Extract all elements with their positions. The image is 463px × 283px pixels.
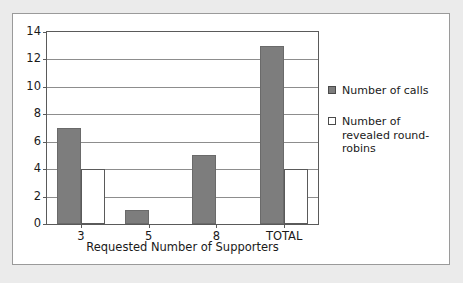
bar-calls-5 bbox=[125, 210, 149, 224]
bar-round-robins-TOTAL bbox=[284, 169, 308, 224]
y-axis-tick-mark bbox=[43, 224, 47, 225]
x-axis-tick-mark bbox=[284, 224, 285, 228]
legend-swatch-empty-white-square-icon bbox=[328, 117, 336, 125]
y-axis-tick-label: 8 bbox=[34, 109, 41, 121]
bar-round-robins-3 bbox=[81, 169, 105, 224]
x-axis-title: Requested Number of Supporters bbox=[46, 242, 319, 254]
legend-item-calls: Number of calls bbox=[328, 84, 446, 98]
legend-swatch-filled-gray-square-icon bbox=[328, 86, 336, 94]
y-axis-tick-label: 2 bbox=[34, 191, 41, 203]
x-axis-tick-mark bbox=[81, 224, 82, 228]
y-axis-tick-mark bbox=[43, 197, 47, 198]
y-axis-tick-label: 4 bbox=[34, 163, 41, 175]
y-axis-tick-mark bbox=[43, 32, 47, 33]
y-axis-tick-mark bbox=[43, 87, 47, 88]
chart-legend: Number of calls Number of revealed round… bbox=[328, 84, 446, 173]
x-axis-tick-label: 3 bbox=[77, 231, 84, 243]
y-axis-tick-label: 6 bbox=[34, 136, 41, 148]
x-axis-tick-mark bbox=[216, 224, 217, 228]
legend-label-round-robins: Number of revealed round-robins bbox=[342, 115, 446, 156]
y-axis-tick-mark bbox=[43, 169, 47, 170]
bar-calls-8 bbox=[192, 155, 216, 224]
x-axis-tick-mark bbox=[149, 224, 150, 228]
legend-item-round-robins: Number of revealed round-robins bbox=[328, 115, 446, 156]
y-axis-tick-label: 12 bbox=[26, 54, 41, 66]
y-axis-tick-mark bbox=[43, 59, 47, 60]
bar-calls-TOTAL bbox=[260, 46, 284, 224]
legend-label-calls: Number of calls bbox=[342, 84, 428, 98]
y-axis-tick-label: 0 bbox=[34, 218, 41, 230]
bar-calls-3 bbox=[57, 128, 81, 224]
y-axis-tick-label: 10 bbox=[26, 81, 41, 93]
plot-area: 02468101214358TOTAL bbox=[46, 31, 319, 225]
y-axis-tick-mark bbox=[43, 114, 47, 115]
chart-figure: 02468101214358TOTAL Requested Number of … bbox=[12, 13, 450, 265]
y-axis-tick-mark bbox=[43, 142, 47, 143]
y-axis-tick-label: 14 bbox=[26, 26, 41, 38]
